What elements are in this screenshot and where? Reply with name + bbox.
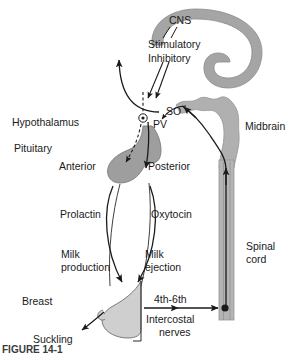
label-so: SO — [166, 105, 181, 117]
label-nerve-level: 4th-6th — [154, 293, 187, 305]
label-milk-production-line2: production — [61, 261, 110, 273]
label-intercostal: Intercostal — [146, 313, 194, 325]
pituitary-gland — [108, 126, 161, 183]
label-stimulatory: Stimulatory — [148, 38, 201, 50]
label-breast: Breast — [22, 295, 52, 307]
intercostal-nerve-arrows — [144, 304, 229, 311]
label-milk-production-line1: Milk — [61, 248, 80, 260]
suckling-arrow — [82, 312, 104, 330]
label-spinal-cord-line1: Spinal — [246, 240, 275, 252]
figure-caption: FIGURE 14-1 — [2, 344, 63, 355]
label-anterior: Anterior — [59, 160, 96, 172]
label-oxytocin: Oxytocin — [151, 208, 192, 220]
label-midbrain: Midbrain — [245, 120, 285, 132]
label-cns: CNS — [169, 14, 191, 26]
label-inhibitory: Inhibitory — [148, 52, 191, 64]
figure-canvas: CNS Stimulatory Inhibitory SO PV Hypotha… — [0, 0, 297, 355]
label-posterior: Posterior — [148, 160, 190, 172]
label-hypothalamus: Hypothalamus — [12, 116, 79, 128]
inhibitory-pathway-arrow — [156, 62, 169, 98]
label-prolactin: Prolactin — [60, 208, 101, 220]
label-spinal-cord-line2: cord — [246, 253, 266, 265]
label-milk-ejection-line1: Milk — [145, 248, 164, 260]
label-nerves: nerves — [159, 326, 191, 338]
label-milk-ejection-line2: ejection — [145, 261, 181, 273]
breast-structure — [98, 281, 141, 341]
pv-neuron-marker — [139, 114, 147, 122]
label-pituitary: Pituitary — [14, 142, 52, 154]
label-pv: PV — [153, 118, 167, 130]
